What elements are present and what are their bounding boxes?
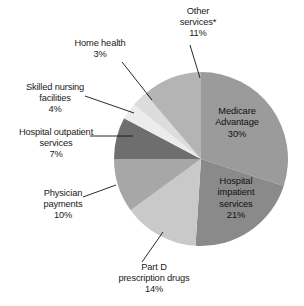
pie-label-skilled-nursing-line1: Skilled nursing [2,82,108,93]
pie-label-hospital-outpatient-percent: 7% [0,149,112,160]
pie-label-hospital-impatient-line3: services [196,199,276,210]
pie-label-part-d-percent: 14% [92,284,216,295]
pie-label-other-services-line1: Other [155,6,241,17]
pie-label-physician-line1: Physician [16,188,110,199]
pie-label-other-services-line2: services* [155,17,241,28]
pie-label-home-health: Home health 3% [52,38,148,60]
pie-label-other-services: Other services* 11% [155,6,241,40]
pie-label-medicare-advantage-line1: Medicare [196,106,278,117]
pie-label-medicare-advantage-line2: Advantage [196,117,278,128]
pie-label-hospital-outpatient-services: Hospital outpatient services 7% [0,127,112,161]
pie-label-physician-line2: payments [16,199,110,210]
pie-label-hospital-outpatient-line1: Hospital outpatient [0,127,112,138]
pie-label-skilled-nursing-line2: facilities [2,93,108,104]
pie-label-hospital-impatient-line2: impatient [196,187,276,198]
pie-label-medicare-advantage-percent: 30% [196,129,278,140]
pie-label-medicare-advantage: Medicare Advantage 30% [196,106,278,140]
pie-label-hospital-impatient-line1: Hospital [196,176,276,187]
pie-label-hospital-outpatient-line2: services [0,138,112,149]
pie-label-skilled-nursing-percent: 4% [2,104,108,115]
pie-label-hospital-impatient-services: Hospital impatient services 21% [196,176,276,222]
pie-label-home-health-percent: 3% [52,49,148,60]
pie-label-part-d-line2: prescription drugs [92,273,216,284]
pie-label-home-health-line1: Home health [52,38,148,49]
pie-label-other-services-percent: 11% [155,28,241,39]
pie-label-physician-percent: 10% [16,210,110,221]
pie-chart-figure: Other services* 11% Home health 3% Skill… [0,0,304,306]
pie-label-hospital-impatient-percent: 21% [196,210,276,221]
leader-line-home-health [122,62,152,100]
pie-label-skilled-nursing-facilities: Skilled nursing facilities 4% [2,82,108,116]
leader-line-part-d [142,232,163,262]
pie-label-part-d-line1: Part D [92,262,216,273]
pie-label-physician-payments: Physician payments 10% [16,188,110,222]
pie-label-part-d-prescription-drugs: Part D prescription drugs 14% [92,262,216,296]
